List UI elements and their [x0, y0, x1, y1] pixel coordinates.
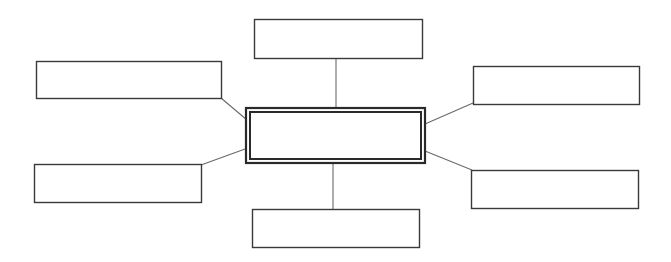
node-label-bottom[interactable] [252, 209, 419, 247]
node-label-bottom-left[interactable] [34, 164, 201, 202]
node-label-top-right[interactable] [473, 66, 639, 104]
connector-top-left [221, 98, 247, 120]
node-label-bottom-right[interactable] [471, 170, 638, 208]
central-node-label[interactable] [245, 107, 426, 164]
node-label-top-left[interactable] [36, 61, 221, 98]
connector-top-right [425, 103, 473, 124]
node-label-top[interactable] [254, 19, 422, 58]
connector-bottom-right [425, 151, 472, 170]
connector-bottom-left [201, 149, 245, 165]
